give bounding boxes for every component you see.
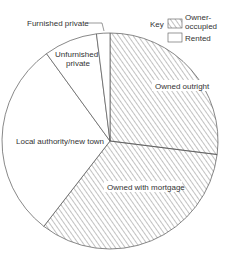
legend-owner-2: occupied bbox=[185, 22, 217, 31]
label-owned-outright: Owned outright bbox=[155, 82, 210, 91]
pie-slice-owned-outright bbox=[110, 33, 218, 155]
legend: Key Owner- occupied Rented bbox=[150, 13, 217, 43]
label-furnished: Furnished private bbox=[27, 19, 89, 28]
legend-owner-1: Owner- bbox=[185, 13, 212, 22]
legend-title: Key bbox=[150, 20, 164, 29]
legend-swatch-rented bbox=[168, 33, 182, 42]
legend-rented: Rented bbox=[185, 34, 211, 43]
label-unfurnished-2: private bbox=[66, 59, 91, 68]
pie-chart: Owned outright Owned with mortgage Local… bbox=[0, 0, 229, 264]
label-local-authority: Local authority/new town bbox=[16, 137, 104, 146]
legend-swatch-owner bbox=[168, 19, 182, 28]
label-owned-mortgage: Owned with mortgage bbox=[107, 183, 185, 192]
label-unfurnished-1: Unfurnished bbox=[55, 50, 98, 59]
furnished-leader-line bbox=[87, 23, 104, 31]
